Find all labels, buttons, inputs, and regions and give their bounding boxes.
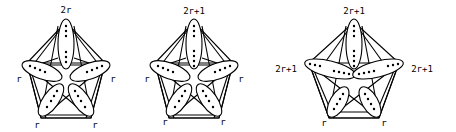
label-bottom-left: r <box>162 117 168 127</box>
vertex-blob-left <box>20 56 65 85</box>
label-bottom-left: r <box>34 120 40 130</box>
graph-1: 2r r r r r <box>16 5 116 130</box>
label-left: r <box>16 74 22 84</box>
graph-3: 2r+1 2r+1 2r+1 r r <box>275 6 433 128</box>
label-left: 2r+1 <box>275 64 297 74</box>
label-right: 2r+1 <box>411 64 433 74</box>
label-top: 2r+1 <box>183 6 205 16</box>
label-right: r <box>238 74 244 84</box>
label-bottom-right: r <box>220 117 226 127</box>
label-bottom-right: r <box>381 118 387 128</box>
figure-canvas: 2r r r r r 2r+1 r r r r <box>0 0 456 132</box>
label-bottom-left: r <box>321 118 327 128</box>
graph-2: 2r+1 r r r r <box>144 6 244 127</box>
label-left: r <box>144 74 150 84</box>
vertex-blob-right <box>196 56 241 85</box>
label-top: 2r+1 <box>343 6 365 16</box>
vertex-blob-left <box>148 56 193 85</box>
label-bottom-right: r <box>92 120 98 130</box>
label-right: r <box>110 74 116 84</box>
label-top: 2r <box>61 5 72 15</box>
vertex-blob-right <box>68 56 113 85</box>
